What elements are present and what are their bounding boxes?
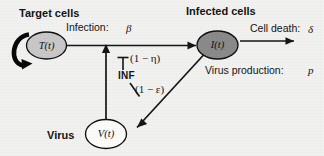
node-infected-cells[interactable]: I(t) [197, 31, 238, 59]
label-virus-production-param: p [307, 64, 314, 76]
diagram-canvas: I(t) horizontal infection edge --> cell … [0, 0, 324, 156]
label-virus-production-text: Virus production: [205, 64, 284, 76]
label-virus: Virus [47, 129, 74, 141]
label-epsilon-term: (1 − ε) [135, 83, 164, 96]
label-cell-death-text: Cell death: [250, 22, 300, 34]
node-virus-label: V(t) [98, 128, 115, 140]
node-virus[interactable]: V(t) [86, 120, 127, 149]
label-inf: INF [118, 70, 135, 81]
heading-target-cells: Target cells [19, 7, 79, 19]
viral-dynamics-diagram: I(t) horizontal infection edge --> cell … [0, 0, 324, 156]
label-infection-text: Infection: [66, 21, 109, 33]
node-infected-cells-label: I(t) [210, 39, 225, 51]
label-cell-death-param: δ [308, 23, 314, 35]
node-target-cells[interactable]: T(t) [27, 32, 67, 59]
label-eta-term: (1 − η) [130, 52, 161, 65]
heading-infected-cells: Infected cells [186, 5, 256, 17]
node-target-cells-label: T(t) [39, 40, 55, 52]
label-infection-param: β [125, 22, 132, 34]
